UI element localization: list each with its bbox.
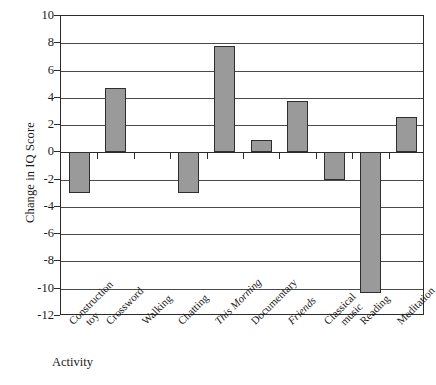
bar-chatting	[178, 152, 199, 193]
x-tick-mark-9	[389, 152, 390, 159]
bar-meditation	[396, 117, 417, 152]
x-tick-mark-2	[134, 152, 135, 159]
y-tick-label--2: -2	[44, 173, 54, 186]
x-tick-mark-6	[279, 152, 280, 159]
y-axis-title: Change in IQ Score	[23, 83, 38, 263]
bar-chart-figure: Change in IQ Score 1086420-2-4-6-8-10-12…	[0, 0, 436, 385]
gridline-8	[61, 43, 423, 44]
bar-documentary	[251, 140, 272, 152]
x-tick-mark-4	[207, 152, 208, 159]
bar-this-morning	[214, 46, 235, 152]
y-tick-label--10: -10	[37, 282, 54, 295]
y-tick-mark--12	[54, 315, 60, 316]
y-tick-label--4: -4	[44, 200, 54, 213]
bar-classical-music	[324, 152, 345, 179]
y-tick-label-10: 10	[42, 9, 55, 22]
bar-construction-toy	[69, 152, 90, 193]
x-tick-mark-8	[352, 152, 353, 159]
x-tick-mark-7	[316, 152, 317, 159]
bar-friends	[287, 101, 308, 153]
bar-reading	[360, 152, 381, 292]
plot-area	[60, 15, 424, 315]
x-tick-mark-5	[243, 152, 244, 159]
y-tick-label--12: -12	[37, 309, 54, 322]
y-tick-label--8: -8	[44, 254, 54, 267]
gridline-6	[61, 71, 423, 72]
y-tick-label--6: -6	[44, 227, 54, 240]
bar-crossword	[105, 88, 126, 152]
x-axis-title: Activity	[52, 355, 93, 370]
x-tick-mark-1	[97, 152, 98, 159]
x-tick-mark-3	[170, 152, 171, 159]
